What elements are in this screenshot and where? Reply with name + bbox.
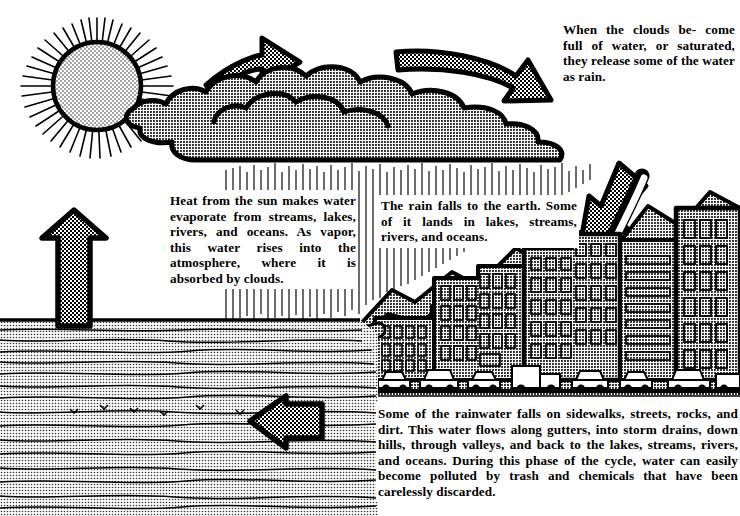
caption-text: Some of the rainwater falls on sidewalks… [378,406,738,499]
caption-line: rain. [578,69,605,84]
emphasis-evaporate: evaporate [170,209,227,224]
precipitation-caption: The rain falls to the earth. Some of it … [379,195,579,248]
water-cycle-diagram: When the clouds be- come full of water, … [0,0,740,516]
caption-text: The rain falls to the earth. Some of it … [381,198,577,245]
runoff-caption: Some of the rainwater falls on sidewalks… [376,403,740,502]
emphasis-saturated: saturated [677,38,731,53]
evaporation-caption: Heat from the sun makes water evaporate … [168,190,358,289]
emphasis-vapor: vapor [320,224,352,239]
caption-line: When the clouds be- [563,22,696,37]
cloud-saturation-caption: When the clouds be- come full of water, … [563,22,735,84]
